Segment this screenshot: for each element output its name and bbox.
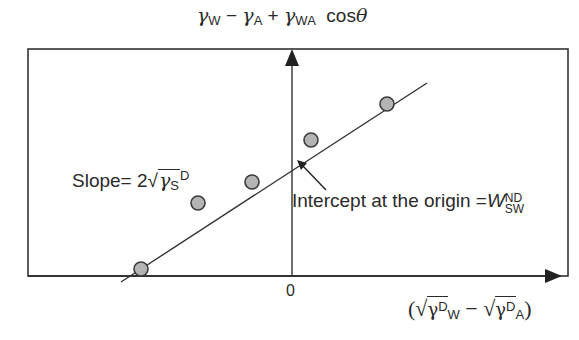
subscript: WA [295, 13, 315, 28]
subscript: A [516, 307, 525, 322]
radicand: γS [158, 169, 180, 196]
subscript: W [208, 13, 220, 28]
w-symbol: W [487, 190, 505, 211]
gamma-symbol: γ [197, 4, 208, 26]
superscript: D [438, 299, 447, 314]
operator: − [221, 5, 243, 26]
gamma-symbol: γ [495, 299, 506, 320]
gamma-symbol: γ [284, 4, 295, 26]
operator: + [262, 5, 284, 26]
cos-text: cos [316, 5, 356, 26]
intercept-annotation: Intercept at the origin =WNDSW [292, 190, 524, 215]
subscript: S [170, 178, 179, 193]
sqrt-sign: √ [415, 296, 427, 321]
slope-text: Slope= 2 [72, 170, 148, 191]
sqrt-sign: √ [148, 170, 158, 191]
gamma-symbol: γ [242, 4, 253, 26]
close-paren: ) [524, 296, 531, 321]
x-axis-arrow-icon [545, 269, 562, 283]
sqrt-sign: √ [483, 296, 495, 321]
slope-annotation: Slope= 2√γSD [72, 168, 189, 196]
data-point [380, 97, 394, 111]
y-axis-arrow-icon [285, 49, 299, 66]
subscript: SW [505, 204, 524, 215]
intercept-text: Intercept at the origin = [292, 190, 487, 211]
y-axis-label: γW − γA + γWA cosθ [197, 4, 367, 28]
gamma-symbol: γ [427, 299, 438, 320]
data-point [134, 262, 148, 276]
x-axis-label: (√γDW − √γDA) [408, 296, 532, 322]
operator: − [460, 296, 483, 321]
radicand: γD [427, 296, 447, 320]
superscript: D [506, 299, 515, 314]
sup-sub-stack: NDSW [505, 193, 524, 215]
superscript: D [180, 168, 189, 183]
intercept-pointer [302, 165, 326, 190]
radicand: γD [495, 296, 515, 320]
theta-symbol: θ [356, 4, 367, 26]
data-point [304, 133, 318, 147]
origin-label: 0 [286, 282, 295, 300]
data-point [245, 175, 259, 189]
subscript: W [448, 307, 460, 322]
gamma-symbol: γ [159, 169, 170, 191]
data-point [191, 196, 205, 210]
